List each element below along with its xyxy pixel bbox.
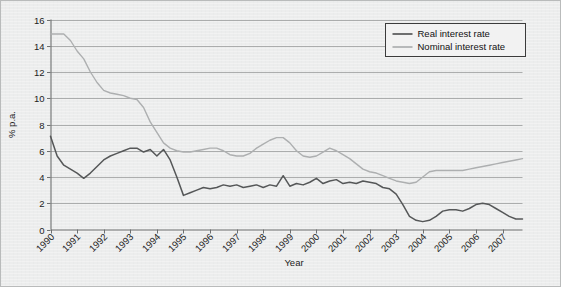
x-axis-tick-label: 1993 [113,231,136,254]
x-axis-tick-label: 1997 [220,231,243,254]
y-axis-tick-label: 10 [34,93,45,104]
y-axis-tick-label: 6 [39,146,44,157]
legend-label-real: Real interest rate [418,28,490,39]
x-axis-tick-label: 2003 [379,231,402,254]
interest-rate-line-chart: 0246810121416 19901991199219931994199519… [1,1,561,287]
legend-label-nominal: Nominal interest rate [418,41,506,52]
x-axis-tick-label: 2006 [459,231,482,254]
y-axis: 0246810121416 [34,15,51,236]
y-axis-tick-label: 8 [39,120,44,131]
x-axis-tick-label: 1992 [87,231,110,254]
x-axis-tick-label: 2004 [406,231,429,254]
y-axis-tick-label: 16 [34,15,45,26]
x-axis-tick-label: 2005 [432,231,455,254]
y-axis-tick-label: 4 [39,172,44,183]
x-axis-tick-label: 1999 [273,231,296,254]
x-axis-tick-label: 2002 [353,231,376,254]
y-axis-tick-label: 14 [34,41,45,52]
x-axis-tick-label: 2001 [326,231,349,254]
chart-figure: 0246810121416 19901991199219931994199519… [0,0,561,287]
y-axis-title: % p.a. [6,111,17,138]
x-axis-tick-label: 1995 [166,231,189,254]
series-lines [51,34,523,222]
x-axis-tick-label: 1996 [193,231,216,254]
x-axis-tick-label: 1990 [34,231,57,254]
chart-legend: Real interest rateNominal interest rate [386,24,526,57]
y-axis-tick-label: 12 [34,67,45,78]
x-axis-tick-label: 1994 [140,231,163,254]
y-axis-tick-label: 0 [39,225,44,236]
x-axis-tick-label: 2000 [299,231,322,254]
x-axis: 1990199119921993199419951996199719981999… [34,230,523,254]
series-line-real [51,136,523,221]
x-axis-tick-label: 1991 [60,231,83,254]
x-axis-tick-label: 1998 [246,231,269,254]
x-axis-title: Year [284,257,303,268]
x-axis-tick-label: 2007 [486,231,509,254]
y-axis-tick-label: 2 [39,198,44,209]
